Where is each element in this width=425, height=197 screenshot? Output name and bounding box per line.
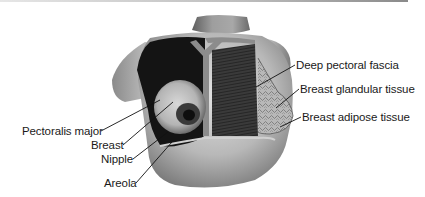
- neck: [192, 15, 250, 34]
- nipple: [183, 110, 195, 121]
- breast-anatomy-illustration: [0, 0, 425, 197]
- label-nipple: Nipple: [101, 153, 133, 165]
- label-breast-glandular-tissue: Breast glandular tissue: [300, 83, 415, 95]
- label-breast: Breast: [91, 139, 124, 151]
- label-breast-adipose-tissue: Breast adipose tissue: [302, 111, 410, 123]
- deep-pectoral-fascia-region: [212, 44, 258, 136]
- label-pectoralis-major: Pectoralis major: [22, 125, 103, 137]
- label-deep-pectoral-fascia: Deep pectoral fascia: [296, 59, 399, 71]
- label-areola: Areola: [104, 177, 137, 189]
